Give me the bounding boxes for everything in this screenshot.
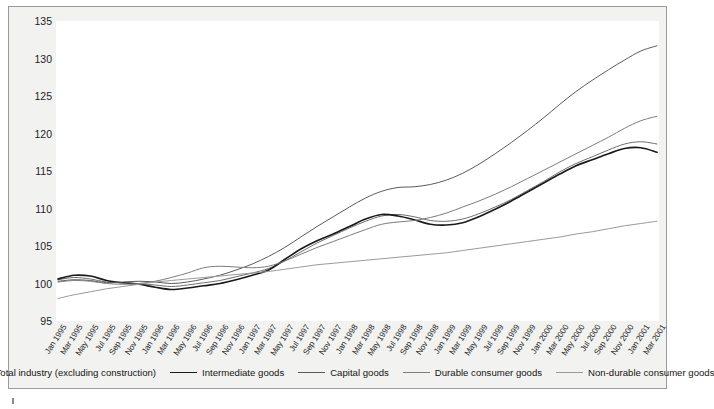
y-axis-tick-label: 95 [18, 316, 52, 326]
legend-item[interactable]: Durable consumer goods [403, 367, 542, 378]
y-axis-tick-label: 115 [18, 166, 52, 176]
legend-item[interactable]: Capital goods [298, 367, 389, 378]
y-axis-tick-label: 130 [18, 54, 52, 64]
chart-figure: 95100105110115120125130135 Jan 1995Mar 1… [8, 6, 667, 389]
y-axis-tick-label: 105 [18, 241, 52, 251]
y-axis-tick-label: 125 [18, 91, 52, 101]
series-line [58, 147, 657, 289]
chart-legend: Total industry (excluding construction)I… [19, 362, 659, 382]
line-series-group [56, 21, 659, 321]
legend-item-label: Total industry (excluding construction) [0, 367, 156, 378]
legend-line-swatch [298, 372, 325, 373]
legend-item-label: Non-durable consumer goods [588, 367, 714, 378]
y-axis: 95100105110115120125130135 [9, 21, 52, 321]
page-corner-mark [12, 398, 14, 404]
legend-line-swatch [556, 372, 583, 373]
series-line [58, 116, 657, 284]
y-axis-tick-label: 100 [18, 279, 52, 289]
legend-item[interactable]: Intermediate goods [170, 367, 284, 378]
legend-item[interactable]: Total industry (excluding construction) [0, 367, 156, 378]
legend-item-label: Intermediate goods [202, 367, 284, 378]
series-line [58, 142, 657, 287]
y-axis-tick-label: 120 [18, 129, 52, 139]
y-axis-tick-label: 135 [18, 16, 52, 26]
plot-area [56, 21, 659, 321]
legend-line-swatch [170, 372, 197, 373]
y-axis-tick-label: 110 [18, 204, 52, 214]
series-line [58, 46, 657, 284]
legend-line-swatch [403, 372, 430, 373]
legend-item[interactable]: Non-durable consumer goods [556, 367, 714, 378]
legend-item-label: Durable consumer goods [435, 367, 542, 378]
legend-item-label: Capital goods [330, 367, 389, 378]
